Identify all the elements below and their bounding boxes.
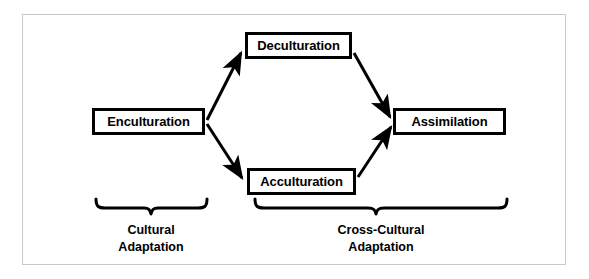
figure-root: Enculturation Deculturation Acculturatio… xyxy=(0,0,589,279)
brace-cross-cultural-adaptation xyxy=(255,199,507,214)
node-enculturation-label: Enculturation xyxy=(107,115,189,128)
arrow-enculturation-to-acculturation xyxy=(207,124,242,178)
node-deculturation-label: Deculturation xyxy=(257,39,339,52)
caption-cross-cultural-adaptation: Cross-Cultural Adaptation xyxy=(296,222,466,256)
node-enculturation[interactable]: Enculturation xyxy=(92,108,205,135)
node-assimilation-label: Assimilation xyxy=(411,115,487,128)
arrow-deculturation-to-assimilation xyxy=(354,53,390,117)
node-acculturation-label: Acculturation xyxy=(260,175,342,188)
arrow-enculturation-to-deculturation xyxy=(207,53,241,120)
node-assimilation[interactable]: Assimilation xyxy=(393,108,506,135)
caption-cross-cultural-line-1: Cross-Cultural xyxy=(296,222,466,239)
caption-cultural-adaptation: Cultural Adaptation xyxy=(86,222,216,256)
caption-cultural-line-2: Adaptation xyxy=(86,239,216,256)
caption-cultural-line-1: Cultural xyxy=(86,222,216,239)
arrow-acculturation-to-assimilation xyxy=(358,127,391,177)
node-deculturation[interactable]: Deculturation xyxy=(245,32,352,59)
caption-cross-cultural-line-2: Adaptation xyxy=(296,239,466,256)
brace-cultural-adaptation xyxy=(96,199,207,214)
node-acculturation[interactable]: Acculturation xyxy=(247,168,356,195)
